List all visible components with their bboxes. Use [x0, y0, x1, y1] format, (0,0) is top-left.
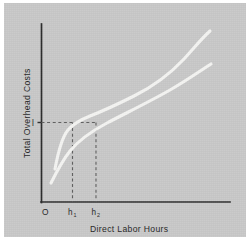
x-tick-label-h2: h [92, 208, 97, 217]
chart-plot-area: O h 1 h 2 l Direct Labor Hours Total Ove… [4, 3, 246, 237]
x-tick-label-h1: h [68, 208, 73, 217]
figure-root: O h 1 h 2 l Direct Labor Hours Total Ove… [0, 0, 250, 241]
y-axis-title: Total Overhead Costs [22, 68, 32, 158]
x-tick-sublabel-h2: 2 [97, 212, 100, 218]
chart-panel: O h 1 h 2 l Direct Labor Hours Total Ove… [4, 3, 246, 237]
actual-cost-curve [55, 31, 210, 169]
y-tick-label-l: l [32, 119, 34, 128]
x-axis-title: Direct Labor Hours [90, 224, 168, 234]
origin-label: O [42, 207, 49, 217]
x-tick-sublabel-h1: 1 [74, 212, 77, 218]
